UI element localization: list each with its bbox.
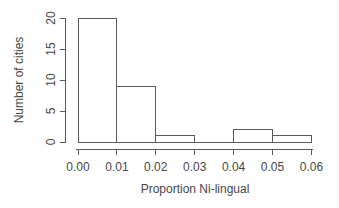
histogram-bar: [117, 86, 156, 142]
x-tick-label: 0.05: [261, 160, 285, 174]
histogram-bar: [234, 130, 273, 142]
histogram-figure: 051015200.000.010.020.030.040.050.06 Pro…: [0, 0, 339, 208]
y-tick-label: 0: [44, 138, 58, 145]
x-axis-title: Proportion Ni-lingual: [141, 182, 250, 196]
histogram-bar: [156, 136, 195, 142]
x-tick-label: 0.02: [144, 160, 168, 174]
x-tick-label: 0.04: [222, 160, 246, 174]
y-tick-label: 10: [44, 73, 58, 87]
x-tick-label: 0.03: [183, 160, 207, 174]
histogram-bar: [78, 18, 117, 142]
x-tick-label: 0.06: [300, 160, 324, 174]
y-axis-title: Number of cities: [12, 37, 26, 124]
x-tick-label: 0.01: [105, 160, 129, 174]
histogram-chart: 051015200.000.010.020.030.040.050.06 Pro…: [0, 0, 339, 208]
histogram-bar: [273, 136, 312, 142]
y-tick-label: 15: [44, 42, 58, 56]
x-tick-label: 0.00: [66, 160, 90, 174]
y-tick-label: 5: [44, 107, 58, 114]
plot-layer: 051015200.000.010.020.030.040.050.06: [44, 11, 323, 174]
y-tick-label: 20: [44, 11, 58, 25]
